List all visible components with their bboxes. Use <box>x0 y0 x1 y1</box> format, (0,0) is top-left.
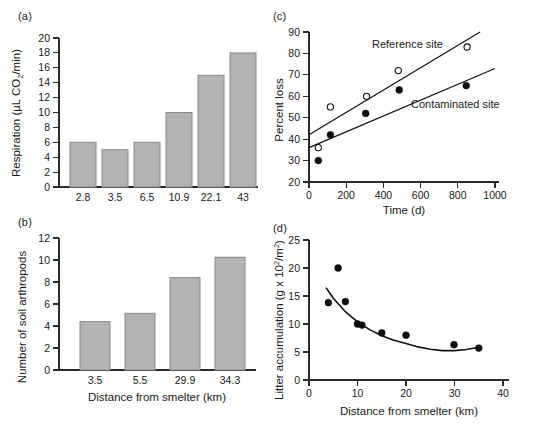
svg-text:30: 30 <box>288 154 300 166</box>
panel-b-tag: (b) <box>18 216 32 228</box>
svg-text:15: 15 <box>288 290 300 302</box>
svg-text:40: 40 <box>288 133 300 145</box>
svg-text:200: 200 <box>337 189 355 201</box>
panel-a-y-axis-title: Respiration (µL CO2/min) <box>10 49 25 177</box>
panel-d-tag: (d) <box>273 222 287 234</box>
svg-text:5: 5 <box>294 346 300 358</box>
svg-text:20: 20 <box>288 262 300 274</box>
panel-d-x-axis-title: Distance from smelter (km) <box>340 405 478 417</box>
svg-text:25: 25 <box>288 234 300 246</box>
svg-text:3.5: 3.5 <box>88 374 103 386</box>
svg-text:1000: 1000 <box>483 189 507 201</box>
panel-a: (a) Respiration (µL CO2/min) 0 2 4 6 8 1… <box>0 0 270 216</box>
svg-text:29.9: 29.9 <box>175 374 196 386</box>
svg-text:40: 40 <box>497 387 509 399</box>
svg-text:2: 2 <box>44 166 50 178</box>
svg-text:4: 4 <box>44 320 50 332</box>
bar-29.9 <box>170 278 200 370</box>
svg-text:800: 800 <box>449 189 467 201</box>
svg-text:12: 12 <box>38 91 50 103</box>
svg-text:2: 2 <box>44 342 50 354</box>
panel-b-chart: Number of soil arthropods 0 2 4 6 8 10 1… <box>0 210 270 433</box>
svg-text:0: 0 <box>44 181 50 193</box>
svg-text:43: 43 <box>237 191 249 203</box>
svg-text:6.5: 6.5 <box>140 191 155 203</box>
svg-text:20: 20 <box>38 32 50 44</box>
panel-d-chart: Litter accumulation (g x 102/m2) 0 5 10 … <box>265 210 537 433</box>
svg-text:16: 16 <box>38 61 50 73</box>
panel-c-tag: (c) <box>273 10 286 22</box>
panel-b-bars <box>80 257 245 370</box>
svg-text:30: 30 <box>449 387 461 399</box>
series-contaminated-site-points <box>315 82 470 164</box>
svg-text:10: 10 <box>38 106 50 118</box>
svg-text:10: 10 <box>288 318 300 330</box>
svg-text:34.3: 34.3 <box>220 374 241 386</box>
svg-text:3.5: 3.5 <box>108 191 123 203</box>
svg-text:10.9: 10.9 <box>169 191 190 203</box>
bar-43 <box>230 53 256 187</box>
panel-c-x-ticks: 0 200 400 600 800 1000 <box>306 182 507 201</box>
svg-text:10: 10 <box>352 387 364 399</box>
bar-34.3 <box>215 257 245 370</box>
panel-b-y-axis-title: Number of soil arthropods <box>16 251 28 384</box>
panel-d-y-axis-title: Litter accumulation (g x 102/m2) <box>272 240 285 400</box>
bar-6.5 <box>134 142 160 187</box>
svg-text:90: 90 <box>288 26 300 38</box>
svg-text:12: 12 <box>38 232 50 244</box>
svg-text:600: 600 <box>412 189 430 201</box>
svg-text:10: 10 <box>38 254 50 266</box>
panel-c-y-axis-title: Percent loss <box>273 78 285 142</box>
svg-text:0: 0 <box>44 364 50 376</box>
panel-a-tag: (a) <box>18 10 32 22</box>
annotation-reference-site: Reference site <box>372 38 443 50</box>
svg-text:60: 60 <box>288 90 300 102</box>
svg-text:20: 20 <box>400 387 412 399</box>
svg-text:5.5: 5.5 <box>133 374 148 386</box>
panel-b: (b) Number of soil arthropods 0 2 4 6 8 … <box>0 210 270 433</box>
svg-text:22.1: 22.1 <box>201 191 222 203</box>
bar-2.8 <box>70 142 96 187</box>
svg-text:6: 6 <box>44 136 50 148</box>
bar-3.5 <box>80 322 110 370</box>
fit-curve-litter <box>326 288 479 351</box>
bar-10.9 <box>166 113 192 188</box>
panel-d-points <box>325 265 482 352</box>
svg-text:6: 6 <box>44 298 50 310</box>
panel-d-y-ticks: 0 5 10 15 20 25 <box>288 234 309 386</box>
panel-b-y-ticks: 0 2 4 6 8 10 12 <box>38 232 59 376</box>
svg-text:0: 0 <box>306 387 312 399</box>
svg-text:8: 8 <box>44 121 50 133</box>
panel-b-x-ticks: 3.5 5.5 29.9 34.3 <box>88 374 241 386</box>
svg-text:18: 18 <box>38 46 50 58</box>
panel-b-x-axis-title: Distance from smelter (km) <box>88 391 226 403</box>
bar-22.1 <box>198 75 224 187</box>
svg-text:4: 4 <box>44 151 50 163</box>
annotation-contaminated-site: Contaminated site <box>411 98 500 110</box>
svg-text:0: 0 <box>294 374 300 386</box>
panel-a-bars <box>70 53 256 187</box>
bar-3.5 <box>102 150 128 187</box>
panel-a-chart: Respiration (µL CO2/min) 0 2 4 6 8 10 12… <box>0 0 270 216</box>
panel-d: (d) Litter accumulation (g x 102/m2) 0 5… <box>265 210 537 433</box>
panel-c-chart: Percent loss 20 30 40 50 60 70 80 90 0 2 <box>265 0 537 216</box>
bar-5.5 <box>125 313 155 370</box>
svg-text:80: 80 <box>288 47 300 59</box>
panel-a-x-ticks: 2.8 3.5 6.5 10.9 22.1 43 <box>76 191 249 203</box>
svg-text:8: 8 <box>44 276 50 288</box>
svg-text:0: 0 <box>306 189 312 201</box>
panel-a-y-ticks: 0 2 4 6 8 10 12 14 16 18 20 <box>38 32 59 193</box>
svg-text:14: 14 <box>38 76 50 88</box>
svg-text:400: 400 <box>375 189 393 201</box>
svg-text:50: 50 <box>288 111 300 123</box>
panel-c-y-ticks: 20 30 40 50 60 70 80 90 <box>288 26 309 188</box>
svg-text:20: 20 <box>288 176 300 188</box>
panel-d-x-ticks: 0 10 20 30 40 <box>306 380 509 399</box>
svg-text:2.8: 2.8 <box>76 191 91 203</box>
svg-text:70: 70 <box>288 68 300 80</box>
panel-c: (c) Percent loss 20 30 40 50 60 70 80 90… <box>265 0 537 216</box>
